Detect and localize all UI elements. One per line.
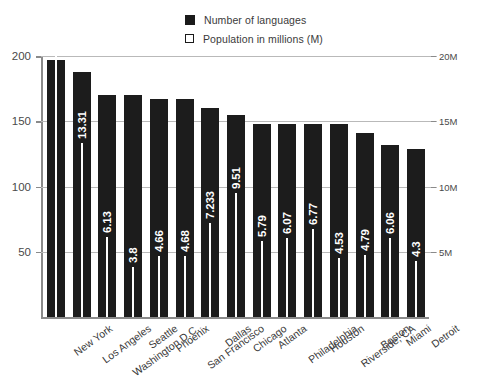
- population-value-label: 5.79: [256, 216, 268, 238]
- population-marker: [364, 255, 366, 318]
- y-axis-left-tick-label: 50: [1, 246, 31, 258]
- bar-group: 4.66: [146, 56, 172, 317]
- hollow-square-icon: [185, 34, 194, 43]
- population-marker: [261, 241, 263, 317]
- population-value-label: 4.66: [153, 231, 165, 253]
- legend-item-languages: Number of languages: [185, 10, 415, 29]
- bar-group: 5.79: [249, 56, 275, 317]
- population-marker: [235, 193, 237, 317]
- population-marker: [106, 237, 108, 317]
- population-marker: [158, 256, 160, 317]
- y-axis-left-tickmark: [36, 187, 41, 189]
- y-axis-right-tickmark: [431, 121, 436, 122]
- population-value-label: 6.13: [101, 211, 113, 233]
- population-value-label: 6.07: [281, 212, 293, 234]
- population-value-label: 4.53: [333, 232, 345, 254]
- population-value-label: 4.79: [359, 229, 371, 251]
- y-axis-right-tick-label: 15M: [439, 116, 457, 127]
- population-marker: [184, 256, 186, 317]
- population-value-label: 20.15: [50, 22, 62, 50]
- chart-container: Number of languages Population in millio…: [0, 0, 477, 392]
- y-axis-left-tickmark: [36, 252, 41, 254]
- y-axis-right-tickmark: [431, 187, 436, 188]
- population-marker: [389, 238, 391, 317]
- population-marker: [312, 229, 314, 317]
- population-marker: [132, 267, 134, 317]
- bar-group: 20.15: [43, 56, 69, 317]
- chart-legend: Number of languages Population in millio…: [185, 10, 415, 48]
- bar-group: 13.31: [69, 56, 95, 317]
- filled-square-icon: [185, 15, 195, 25]
- y-axis-right-tick-label: 20M: [439, 51, 457, 62]
- y-axis-left-tickmark: [36, 56, 41, 58]
- bar-group: 3.8: [120, 56, 146, 317]
- population-marker: [209, 223, 211, 317]
- bar-group: 6.77: [300, 56, 326, 317]
- population-marker: [286, 238, 288, 317]
- y-axis-left-tick-label: 200: [1, 50, 31, 62]
- legend-item-population: Population in millions (M): [185, 29, 415, 48]
- y-axis-right-tick-label: 5M: [439, 246, 452, 257]
- plot-area: 50100150200 5M10M15M20M 20.1513.316.133.…: [41, 56, 429, 318]
- x-axis-line: [41, 317, 429, 319]
- population-value-label: 9.51: [230, 167, 242, 189]
- bar-group: 4.53: [326, 56, 352, 317]
- bar-group: 4.3: [403, 56, 429, 317]
- population-value-label: 3.8: [127, 248, 139, 263]
- y-axis-left-tick-label: 100: [1, 181, 31, 193]
- bar-series: 20.1513.316.133.84.664.687.2339.515.796.…: [43, 56, 429, 317]
- bar-group: 6.13: [94, 56, 120, 317]
- y-axis-right-tickmark: [431, 252, 436, 253]
- bar-group: 7.233: [197, 56, 223, 317]
- legend-label-population: Population in millions (M): [203, 33, 323, 45]
- x-axis-labels: New YorkLos AngelesWashington D.C.Seattl…: [41, 320, 433, 392]
- population-value-label: 4.68: [179, 230, 191, 252]
- y-axis-right-tick-label: 10M: [439, 181, 457, 192]
- population-marker: [415, 261, 417, 317]
- population-value-label: 4.3: [410, 242, 422, 257]
- x-axis-label: Detroit: [429, 322, 461, 350]
- population-value-label: 13.31: [76, 112, 88, 140]
- legend-label-languages: Number of languages: [204, 14, 306, 26]
- population-value-label: 6.06: [384, 212, 396, 234]
- population-marker: [81, 143, 83, 317]
- bar-group: 4.79: [352, 56, 378, 317]
- bar-group: 6.07: [275, 56, 301, 317]
- y-axis-right-tickmark: [431, 56, 436, 57]
- bar-group: 4.68: [172, 56, 198, 317]
- bar-group: 6.06: [378, 56, 404, 317]
- population-value-label: 6.77: [307, 203, 319, 225]
- bar-group: 9.51: [223, 56, 249, 317]
- y-axis-left-tickmark: [36, 121, 41, 123]
- population-marker: [338, 258, 340, 317]
- population-marker: [55, 54, 57, 317]
- y-axis-left-tick-label: 150: [1, 115, 31, 127]
- population-value-label: 7.233: [204, 191, 216, 219]
